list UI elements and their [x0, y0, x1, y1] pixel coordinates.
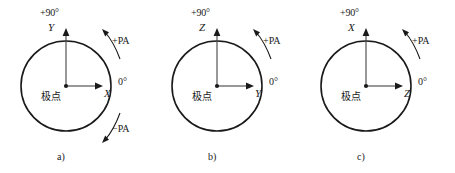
pa-plus-label: +PA	[112, 36, 130, 46]
pole-center-dot	[64, 84, 68, 88]
vertical-axis-arrowhead-icon	[63, 28, 70, 36]
vertical-axis-arrowhead-icon	[363, 28, 370, 36]
vertical-axis-arrowhead-icon	[214, 28, 221, 36]
top-degree-label: +90°	[191, 8, 210, 18]
pole-center-label: 极点	[192, 92, 212, 102]
horizontal-axis-arrowhead-icon	[95, 83, 103, 90]
vertical-axis-label: Y	[48, 22, 54, 33]
panel-c-graphic	[300, 0, 452, 173]
horizontal-axis-label: X	[104, 88, 111, 99]
horizontal-axis-arrowhead-icon	[246, 83, 254, 90]
panel-b-graphic	[151, 0, 303, 173]
vertical-axis-label: Z	[199, 22, 205, 33]
pole-center-dot	[215, 84, 219, 88]
top-degree-label: +90°	[40, 8, 59, 18]
polar-axis-convention-figure: +90° Y X 0° 极点 +PA −PA a) +90° Z Y 0° 极点…	[0, 0, 455, 173]
diagram-panel-c: +90° X Z 0° 极点 +PA c)	[300, 0, 452, 173]
pole-center-label: 极点	[41, 92, 61, 102]
pa-plus-label: +PA	[263, 36, 281, 46]
zero-degree-label: 0°	[118, 77, 127, 87]
pole-center-dot	[364, 84, 368, 88]
diagram-panel-a: +90° Y X 0° 极点 +PA −PA a)	[0, 0, 152, 173]
diagram-panel-b: +90° Z Y 0° 极点 +PA b)	[151, 0, 303, 173]
zero-degree-label: 0°	[269, 77, 278, 87]
pa-minus-label: −PA	[112, 124, 130, 134]
horizontal-axis-label: Y	[255, 88, 261, 99]
horizontal-axis-arrowhead-icon	[395, 83, 403, 90]
pole-center-label: 极点	[341, 92, 361, 102]
horizontal-axis-label: Z	[404, 88, 410, 99]
pa-plus-label: +PA	[412, 36, 430, 46]
panel-caption: a)	[57, 152, 65, 162]
zero-degree-label: 0°	[418, 77, 427, 87]
panel-a-graphic	[0, 0, 152, 173]
top-degree-label: +90°	[340, 8, 359, 18]
panel-caption: b)	[208, 152, 216, 162]
panel-caption: c)	[357, 152, 365, 162]
vertical-axis-label: X	[348, 22, 355, 33]
